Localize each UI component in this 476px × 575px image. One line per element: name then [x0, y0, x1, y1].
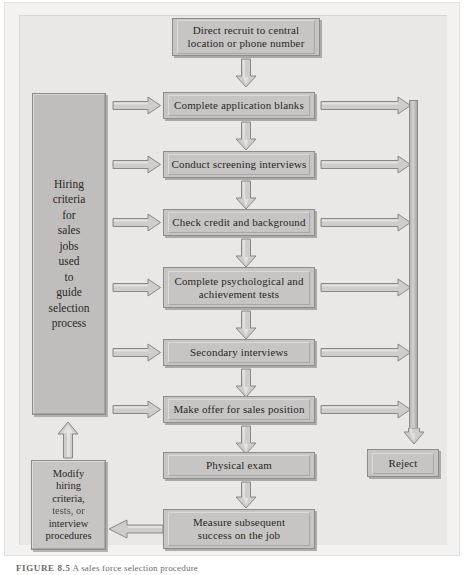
step-5-line-1: Make offer for sales position [171, 403, 307, 416]
flow-box-direct-recruit: Direct recruit to central location or ph… [172, 18, 320, 56]
flow-box-reject: Reject [367, 449, 439, 477]
hiring-criteria-line-9: process [49, 316, 90, 332]
criteria-feeds-step-arrow [112, 343, 162, 362]
criteria-feeds-step-arrow [112, 96, 162, 115]
step-to-next-step-arrow [234, 238, 258, 268]
physical-exam-line-1: Physical exam [171, 459, 307, 472]
criteria-feeds-step-arrow [112, 155, 162, 174]
step-3-line-1: Complete psychological and [171, 275, 307, 288]
entry-line-2: location or phone number [180, 37, 312, 50]
step-to-reject-arrow [320, 278, 412, 297]
step-to-next-step-arrow [234, 310, 258, 340]
modify-line-5: procedures [45, 530, 91, 543]
hiring-criteria-line-5: used [49, 254, 90, 270]
hiring-criteria-line-8: selection [49, 301, 90, 317]
flow-box-screening-interviews: Conduct screening interviews [163, 151, 315, 178]
measure-success-line-2: success on the job [171, 529, 307, 542]
flow-box-physical-exam: Physical exam [163, 452, 315, 479]
modify-criteria-text: Modify hiring criteria, tests, or interv… [45, 468, 91, 543]
flow-box-psychological-tests: Complete psychological and achievement t… [163, 267, 315, 308]
hiring-criteria-box: Hiring criteria for sales jobs used to g… [32, 93, 106, 415]
hiring-criteria-line-0: Hiring [49, 177, 90, 193]
modify-line-4: interview [45, 518, 91, 531]
entry-line-1: Direct recruit to central [180, 24, 312, 37]
step-to-next-step-arrow [234, 58, 258, 88]
step-1-line-1: Conduct screening interviews [171, 158, 307, 171]
measure-success-line-1: Measure subsequent [171, 516, 307, 529]
reject-label: Reject [375, 457, 431, 470]
flow-box-credit-background: Check credit and background [163, 209, 315, 236]
step-to-reject-arrow [320, 96, 412, 115]
modify-line-1: hiring [45, 480, 91, 493]
step-to-next-step-arrow [234, 121, 258, 151]
criteria-feeds-step-arrow [112, 400, 162, 419]
flow-box-secondary-interviews: Secondary interviews [163, 339, 315, 366]
step-to-next-step-arrow [234, 425, 258, 455]
figure-caption: FIGURE 8.5 A sales force selection proce… [16, 563, 198, 575]
modify-line-3: tests, or [45, 505, 91, 518]
flow-box-make-offer: Make offer for sales position [163, 396, 315, 423]
flow-box-application-blanks: Complete application blanks [163, 92, 315, 119]
step-to-reject-arrow [320, 213, 412, 232]
criteria-feeds-step-arrow [112, 278, 162, 297]
step-to-reject-arrow [320, 155, 412, 174]
step-to-reject-arrow [320, 400, 412, 419]
step-to-next-step-arrow [234, 481, 258, 509]
modify-line-2: criteria, [45, 493, 91, 506]
rail-to-reject-arrow [403, 428, 424, 444]
modify-to-criteria-arrow [56, 421, 80, 459]
hiring-criteria-line-3: sales [49, 223, 90, 239]
feedback-to-modify-arrow [108, 519, 164, 539]
figure-caption-text: A sales force selection procedure [72, 563, 198, 573]
step-0-line-1: Complete application blanks [171, 99, 307, 112]
step-to-next-step-arrow [234, 368, 258, 398]
hiring-criteria-line-1: criteria [49, 192, 90, 208]
hiring-criteria-line-4: jobs [49, 239, 90, 255]
hiring-criteria-text: Hiring criteria for sales jobs used to g… [49, 177, 90, 332]
modify-line-0: Modify [45, 468, 91, 481]
figure-caption-label: FIGURE 8.5 [16, 563, 71, 573]
criteria-feeds-step-arrow [112, 213, 162, 232]
step-to-next-step-arrow [234, 180, 258, 210]
step-to-reject-arrow [320, 343, 412, 362]
reject-collector-rail [409, 100, 418, 430]
hiring-criteria-line-2: for [49, 208, 90, 224]
flow-box-measure-success: Measure subsequent success on the job [163, 509, 315, 549]
hiring-criteria-line-7: guide [49, 285, 90, 301]
hiring-criteria-line-6: to [49, 270, 90, 286]
step-2-line-1: Check credit and background [171, 216, 307, 229]
step-3-line-2: achievement tests [171, 288, 307, 301]
step-4-line-1: Secondary interviews [171, 346, 307, 359]
modify-criteria-box: Modify hiring criteria, tests, or interv… [31, 460, 106, 550]
